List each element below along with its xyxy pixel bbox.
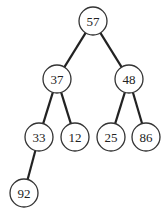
edge-37-12 <box>61 92 71 123</box>
edge-48-86 <box>133 92 142 123</box>
edge-33-92 <box>28 151 36 180</box>
edge-48-25 <box>115 92 125 123</box>
tree-node-92: 92 <box>10 179 38 207</box>
tree-node-33: 33 <box>25 123 53 151</box>
node-label: 86 <box>140 130 154 145</box>
tree-edges <box>28 33 142 180</box>
tree-diagram: 5737483312258692 <box>0 0 164 215</box>
node-label: 48 <box>123 72 136 87</box>
tree-node-25: 25 <box>97 123 125 151</box>
node-label: 33 <box>33 130 46 145</box>
node-label: 25 <box>105 130 118 145</box>
tree-node-86: 86 <box>132 123 160 151</box>
tree-node-12: 12 <box>61 123 89 151</box>
edge-57-37 <box>64 33 85 67</box>
node-label: 92 <box>18 186 31 201</box>
tree-svg: 5737483312258692 <box>0 0 164 215</box>
tree-node-48: 48 <box>115 65 143 93</box>
tree-node-57: 57 <box>79 7 107 35</box>
edge-57-48 <box>100 33 121 67</box>
tree-node-37: 37 <box>43 65 71 93</box>
node-label: 12 <box>69 130 82 145</box>
node-label: 37 <box>51 72 65 87</box>
edge-37-33 <box>43 92 53 123</box>
node-label: 57 <box>87 14 101 29</box>
